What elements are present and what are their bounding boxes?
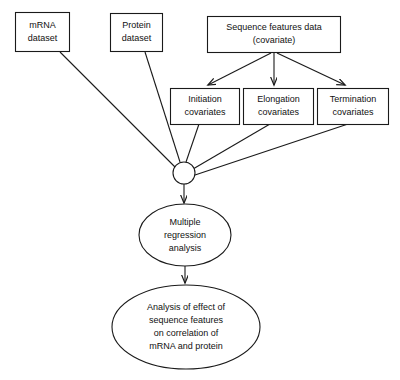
analysis-result-label-line4: mRNA and protein (149, 341, 223, 351)
edge-initiation-to-junction (186, 124, 199, 162)
sequence-features-label-line1: Sequence features data (226, 22, 322, 32)
edge-elongation-to-junction (193, 124, 270, 169)
node-junction[interactable] (173, 162, 195, 184)
termination-covariates-label-line2: covariates (332, 107, 374, 117)
analysis-result-ellipse[interactable] (112, 285, 260, 369)
node-mrna-dataset[interactable]: mRNA dataset (16, 13, 70, 52)
protein-dataset-label-line1: Protein (122, 20, 151, 30)
initiation-covariates-label-line2: covariates (184, 107, 226, 117)
elongation-covariates-label-line1: Elongation (257, 94, 300, 104)
analysis-result-label-line3: on correlation of (154, 328, 219, 338)
mrna-dataset-label-line2: dataset (28, 33, 58, 43)
node-termination-covariates[interactable]: Termination covariates (318, 89, 389, 125)
flowchart-diagram: mRNA dataset Protein dataset Sequence fe… (0, 0, 400, 380)
node-multiple-regression[interactable]: Multiple regression analysis (139, 204, 231, 266)
termination-covariates-label-line1: Termination (330, 94, 377, 104)
sequence-features-label-line2: (covariate) (253, 35, 296, 45)
node-analysis-result[interactable]: Analysis of effect of sequence features … (112, 285, 260, 369)
flowchart-canvas: mRNA dataset Protein dataset Sequence fe… (0, 0, 400, 380)
analysis-result-label-line2: sequence features (149, 315, 224, 325)
node-initiation-covariates[interactable]: Initiation covariates (171, 89, 240, 125)
node-sequence-features[interactable]: Sequence features data (covariate) (208, 17, 341, 53)
node-protein-dataset[interactable]: Protein dataset (111, 14, 163, 52)
analysis-result-label-line1: Analysis of effect of (147, 302, 225, 312)
multiple-regression-label-line3: analysis (169, 243, 202, 253)
multiple-regression-label-line1: Multiple (169, 217, 200, 227)
junction-circle[interactable] (173, 162, 195, 184)
mrna-dataset-label-line1: mRNA (29, 20, 56, 30)
multiple-regression-label-line2: regression (164, 230, 206, 240)
elongation-covariates-label-line2: covariates (258, 107, 300, 117)
edge-termination-to-junction (195, 124, 348, 175)
edge-sequence-to-initiation (208, 53, 271, 85)
protein-dataset-label-line2: dataset (122, 33, 152, 43)
node-elongation-covariates[interactable]: Elongation covariates (244, 89, 314, 125)
edge-sequence-to-termination (277, 53, 345, 85)
edge-mrna-to-junction (60, 52, 175, 167)
initiation-covariates-label-line1: Initiation (188, 94, 222, 104)
